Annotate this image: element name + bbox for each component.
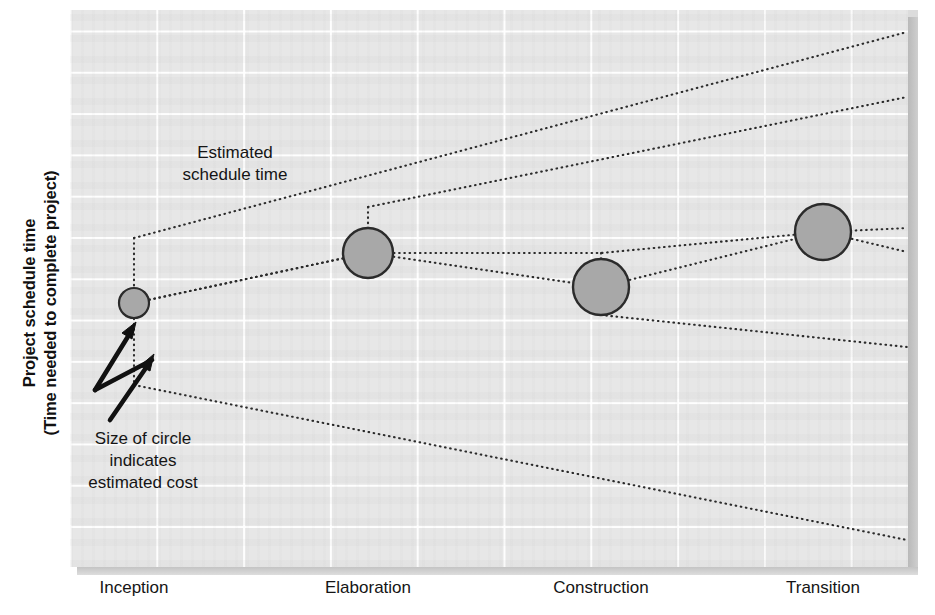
figure-root: Project schedule time (Time needed to co… — [0, 0, 935, 615]
cost-label-line2: indicates — [109, 451, 176, 470]
x-tick-transition: Transition — [786, 578, 860, 598]
estimated-label-line2: schedule time — [183, 165, 288, 184]
cost-label-line1: Size of circle — [95, 429, 191, 448]
x-tick-construction: Construction — [553, 578, 648, 598]
size-of-circle-label: Size of circle indicates estimated cost — [48, 428, 238, 494]
y-axis-title-line1: Project schedule time — [19, 93, 40, 513]
estimated-schedule-time-label: Estimated schedule time — [150, 142, 320, 186]
x-tick-inception: Inception — [100, 578, 169, 598]
panel-shadow-bottom — [77, 567, 918, 575]
x-axis-tick-labels: Inception Elaboration Construction Trans… — [70, 578, 908, 604]
cost-label-line3: estimated cost — [88, 473, 198, 492]
panel-shadow-right — [908, 17, 918, 574]
estimated-label-line1: Estimated — [197, 143, 273, 162]
x-tick-elaboration: Elaboration — [325, 578, 411, 598]
